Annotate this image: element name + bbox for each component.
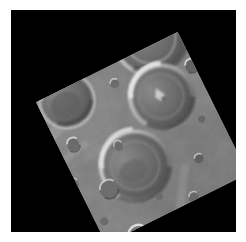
page-margin-right bbox=[236, 0, 246, 242]
terrain-surface bbox=[36, 32, 236, 232]
image-viewer: Cratered Planetary Surface Mosaic Spacec… bbox=[0, 0, 246, 242]
page-margin-left bbox=[0, 0, 11, 242]
terrain-render bbox=[36, 32, 236, 232]
page-margin-top bbox=[0, 0, 246, 10]
space-backdrop bbox=[11, 10, 236, 232]
page-margin-bottom bbox=[0, 232, 246, 242]
mosaic-frame bbox=[36, 32, 236, 232]
